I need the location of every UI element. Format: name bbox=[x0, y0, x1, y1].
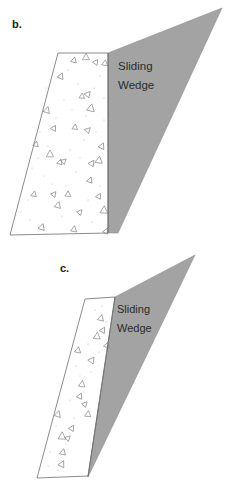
speckle-dot bbox=[99, 185, 100, 186]
speckle-dot bbox=[83, 139, 84, 140]
speckle-dot bbox=[98, 351, 99, 352]
speckle-dot bbox=[75, 365, 76, 366]
speckle-dot bbox=[45, 87, 46, 88]
speckle-dot bbox=[31, 167, 32, 168]
speckle-dot bbox=[57, 469, 58, 470]
speckle-dot bbox=[93, 87, 94, 88]
speckle-dot bbox=[69, 149, 70, 150]
speckle-dot bbox=[94, 309, 95, 310]
speckle-dot bbox=[49, 451, 50, 452]
speckle-dot bbox=[73, 417, 74, 418]
speckle-dot bbox=[87, 343, 88, 344]
speckle-dot bbox=[85, 115, 86, 116]
speckle-dot bbox=[90, 371, 91, 372]
speckle-dot bbox=[55, 117, 56, 118]
panel-b-wedge-label-line2: Wedge bbox=[118, 79, 154, 91]
speckle-dot bbox=[69, 399, 70, 400]
figure-root: b. Sliding Wedge c. Sliding Wedge bbox=[0, 0, 231, 488]
speckle-dot bbox=[95, 131, 96, 132]
speckle-dot bbox=[29, 219, 30, 220]
speckle-dot bbox=[65, 185, 66, 186]
speckle-dot bbox=[61, 215, 62, 216]
speckle-dot bbox=[19, 211, 20, 212]
speckle-dot bbox=[99, 75, 100, 76]
speckle-dot bbox=[43, 175, 44, 176]
speckle-dot bbox=[71, 109, 72, 110]
speckle-dot bbox=[37, 157, 38, 158]
speckle-dot bbox=[83, 391, 84, 392]
speckle-dot bbox=[27, 199, 28, 200]
speckle-dot bbox=[67, 69, 68, 70]
speckle-dot bbox=[91, 221, 92, 222]
panel-b-label: b. bbox=[12, 18, 22, 30]
speckle-dot bbox=[103, 119, 104, 120]
speckle-dot bbox=[39, 131, 40, 132]
speckle-dot bbox=[51, 183, 52, 184]
speckle-dot bbox=[79, 375, 80, 376]
sliding-wedge-figure: b. Sliding Wedge c. Sliding Wedge bbox=[0, 0, 231, 488]
panel-c-label: c. bbox=[60, 262, 69, 274]
panel-c-wedge-label-line1: Sliding bbox=[117, 303, 150, 315]
speckle-dot bbox=[75, 171, 76, 172]
speckle-dot bbox=[47, 145, 48, 146]
speckle-dot bbox=[55, 425, 56, 426]
speckle-dot bbox=[77, 83, 78, 84]
speckle-dot bbox=[101, 305, 102, 306]
speckle-dot bbox=[105, 321, 106, 322]
speckle-dot bbox=[87, 199, 88, 200]
speckle-dot bbox=[79, 157, 80, 158]
speckle-dot bbox=[47, 465, 48, 466]
speckle-dot bbox=[63, 99, 64, 100]
speckle-dot bbox=[65, 443, 66, 444]
panel-b-wedge-label-line1: Sliding bbox=[118, 60, 153, 72]
speckle-dot bbox=[103, 97, 104, 98]
panel-c-wedge-label-line2: Wedge bbox=[117, 322, 152, 334]
